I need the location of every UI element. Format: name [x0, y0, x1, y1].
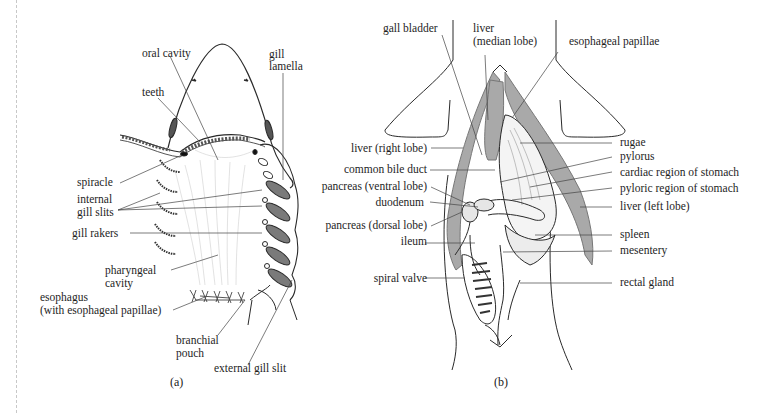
label-gall-bladder: gall bladder [383, 22, 438, 35]
label-internal-gill-slits-line1: internal [77, 193, 112, 206]
label-cardiac-region: cardiac region of stomach [620, 166, 739, 179]
label-spiral-valve: spiral valve [374, 272, 427, 285]
label-mesentery: mesentery [620, 244, 667, 257]
figure-b-caption: (b) [494, 375, 508, 390]
label-pharyngeal-cavity-line2: cavity [105, 277, 133, 290]
label-liver-median-line1: liver [473, 22, 494, 35]
label-pylorus: pylorus [620, 150, 655, 163]
label-teeth: teeth [142, 86, 164, 99]
label-pyloric-region: pyloric region of stomach [620, 182, 738, 195]
label-oral-cavity: oral cavity [142, 47, 191, 60]
label-duodenum: duodenum [375, 196, 424, 209]
label-gill-lamella-line2: lamella [269, 60, 303, 73]
figure-b-drawing [385, 20, 625, 370]
label-spleen: spleen [620, 228, 649, 241]
label-rectal-gland: rectal gland [620, 276, 674, 289]
label-esophagus-line2: (with esophageal papillae) [40, 304, 161, 317]
label-branchial-pouch-line1: branchial [176, 334, 219, 347]
label-pancreas-dorsal: pancreas (dorsal lobe) [325, 219, 427, 232]
label-branchial-pouch-line2: pouch [176, 347, 204, 360]
label-external-gill-slit: external gill slit [214, 362, 286, 375]
label-liver-median-line2: (median lobe) [473, 35, 537, 48]
label-esophageal-papillae: esophageal papillae [569, 35, 659, 48]
label-rugae: rugae [620, 136, 646, 149]
figure-a-caption: (a) [170, 375, 183, 390]
label-common-bile-duct: common bile duct [344, 163, 427, 176]
label-pancreas-ventral: pancreas (ventral lobe) [322, 180, 427, 193]
label-internal-gill-slits-line2: gill slits [77, 206, 114, 219]
label-gill-rakers: gill rakers [72, 227, 118, 240]
label-esophagus-line1: esophagus [40, 291, 88, 304]
label-ileum: ileum [401, 235, 427, 248]
label-pharyngeal-cavity-line1: pharyngeal [105, 264, 156, 277]
label-liver-left-lobe: liver (left lobe) [620, 200, 690, 213]
label-spiracle: spiracle [77, 176, 113, 189]
label-liver-right-lobe: liver (right lobe) [351, 142, 427, 155]
